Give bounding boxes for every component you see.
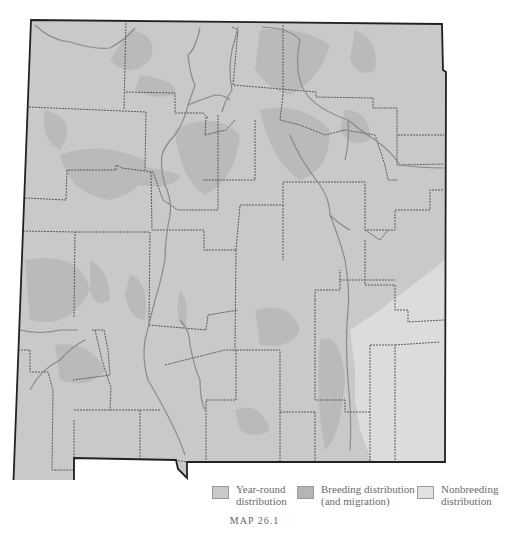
legend-label-line1: Breeding distribution <box>321 483 415 495</box>
map-caption: MAP 26.1 <box>0 515 509 526</box>
legend-label-line2: distribution <box>236 495 287 507</box>
year-round-swatch <box>212 486 229 499</box>
legend-item-breeding: Breeding distribution (and migration) <box>297 483 415 507</box>
nonbreeding-swatch <box>417 486 434 499</box>
legend-item-nonbreeding: Nonbreeding distribution <box>417 483 498 507</box>
distribution-map <box>0 0 509 480</box>
legend-label-line1: Year-round <box>236 483 287 495</box>
legend-item-year-round: Year-round distribution <box>212 483 287 507</box>
breeding-swatch <box>297 486 314 499</box>
legend-label-line1: Nonbreeding <box>441 483 498 495</box>
legend-label-line2: distribution <box>441 495 498 507</box>
legend-label-line2: (and migration) <box>321 495 415 507</box>
